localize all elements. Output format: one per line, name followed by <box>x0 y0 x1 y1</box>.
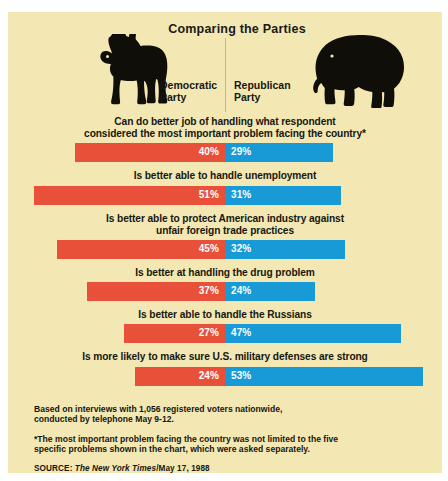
legend-republican: Republican Party <box>234 80 291 103</box>
asterisk-note: *The most important problem facing the c… <box>34 434 424 455</box>
legend-democratic: Democratic Party <box>160 80 217 103</box>
bar-value-republican: 31% <box>231 189 251 200</box>
bar-democratic: 24% <box>135 367 225 386</box>
chart-row: Is better at handling the drug problem37… <box>8 263 442 301</box>
bar-republican: 32% <box>225 240 345 259</box>
bar-track: 37%24% <box>8 282 442 301</box>
row-label-line: Is better able to handle unemployment <box>22 170 428 182</box>
row-label: Is better at handling the drug problem <box>8 263 442 282</box>
row-label-line: unfair foreign trade practices <box>22 225 428 237</box>
center-divider <box>225 38 226 112</box>
chart-footer: Based on interviews with 1,056 registere… <box>34 404 424 473</box>
row-label-line: Is better at handling the drug problem <box>22 267 428 279</box>
bar-track: 51%31% <box>8 186 442 205</box>
elephant-icon <box>308 32 420 112</box>
bar-value-democratic: 40% <box>199 146 219 157</box>
chart-rows: Can do better job of handling what respo… <box>8 112 442 386</box>
legend-republican-line1: Republican <box>234 80 291 92</box>
bar-value-republican: 53% <box>231 370 251 381</box>
source-publication: The New York Times <box>75 464 156 473</box>
bar-republican: 47% <box>225 324 401 343</box>
row-label-line: Is better able to protect American indus… <box>22 213 428 225</box>
chart-header: Comparing the Parties Democratic Party R… <box>8 12 442 112</box>
bar-democratic: 40% <box>75 143 225 162</box>
legend-democratic-line1: Democratic <box>160 80 217 92</box>
row-label-line: Is better able to handle the Russians <box>22 309 428 321</box>
bar-democratic: 45% <box>57 240 225 259</box>
row-label-line: considered the most important problem fa… <box>22 128 428 140</box>
bar-value-democratic: 27% <box>199 327 219 338</box>
bar-value-democratic: 37% <box>199 285 219 296</box>
bar-value-democratic: 24% <box>199 370 219 381</box>
chart-row: Is better able to handle unemployment51%… <box>8 166 442 204</box>
source-prefix: SOURCE: <box>34 464 75 473</box>
bar-track: 40%29% <box>8 143 442 162</box>
bar-value-republican: 29% <box>231 146 251 157</box>
bar-value-democratic: 45% <box>199 243 219 254</box>
bar-value-republican: 24% <box>231 285 251 296</box>
bar-republican: 24% <box>225 282 315 301</box>
bar-value-republican: 32% <box>231 243 251 254</box>
bar-track: 27%47% <box>8 324 442 343</box>
chart-row: Can do better job of handling what respo… <box>8 112 442 162</box>
row-label-line: Is more likely to make sure U.S. militar… <box>22 351 428 363</box>
bar-track: 24%53% <box>8 367 442 386</box>
methodology-note-line2: conducted by telephone May 9-12. <box>34 414 424 424</box>
source-date: /May 17, 1988 <box>156 464 210 473</box>
methodology-note-line1: Based on interviews with 1,056 registere… <box>34 404 424 414</box>
row-label-line: Can do better job of handling what respo… <box>22 116 428 128</box>
source-line: SOURCE: The New York Times/May 17, 1988 <box>34 464 424 473</box>
bar-democratic: 27% <box>124 324 225 343</box>
bar-track: 45%32% <box>8 240 442 259</box>
bar-republican: 31% <box>225 186 341 205</box>
bar-democratic: 51% <box>34 186 225 205</box>
legend-republican-line2: Party <box>234 92 291 104</box>
legend-democratic-line2: Party <box>160 92 217 104</box>
bar-value-republican: 47% <box>231 327 251 338</box>
row-label: Is better able to protect American indus… <box>8 209 442 240</box>
asterisk-note-line1: *The most important problem facing the c… <box>34 434 424 444</box>
chart-row: Is better able to handle the Russians27%… <box>8 305 442 343</box>
asterisk-note-line2: specific problems shown in the chart, wh… <box>34 444 424 454</box>
bar-republican: 29% <box>225 143 333 162</box>
row-label: Is better able to handle the Russians <box>8 305 442 324</box>
row-label: Is more likely to make sure U.S. militar… <box>8 347 442 366</box>
bar-democratic: 37% <box>87 282 225 301</box>
chart-panel: Comparing the Parties Democratic Party R… <box>8 12 442 473</box>
row-label: Can do better job of handling what respo… <box>8 112 442 143</box>
row-label: Is better able to handle unemployment <box>8 166 442 185</box>
bar-republican: 53% <box>225 367 423 386</box>
chart-row: Is better able to protect American indus… <box>8 209 442 259</box>
bar-value-democratic: 51% <box>199 189 219 200</box>
chart-row: Is more likely to make sure U.S. militar… <box>8 347 442 385</box>
methodology-note: Based on interviews with 1,056 registere… <box>34 404 424 425</box>
